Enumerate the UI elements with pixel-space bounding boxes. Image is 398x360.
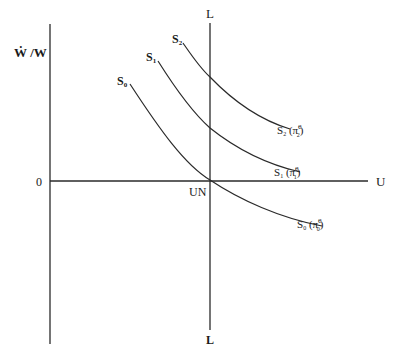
curve-s1: [158, 61, 300, 172]
s1-end-label: S1 (πe1): [274, 164, 301, 180]
s0-start-label: S0: [117, 74, 128, 89]
x-axis-label: U: [376, 174, 386, 189]
s2-end-label: S2 (πe2): [277, 122, 304, 138]
l-line-top-label: L: [206, 6, 214, 21]
s1-start-label: S1: [146, 50, 157, 65]
un-label: UN: [189, 185, 207, 199]
s2-start-label: S2: [172, 32, 183, 47]
phillips-curve-diagram: Ẇ /W 0 U L L UN S0 S1 S2 S2 (πe2) S1 (πe…: [0, 0, 398, 360]
s0-end-label: S0 (πe0): [297, 216, 324, 232]
l-line-bottom-label: L: [206, 333, 214, 347]
curve-s2: [183, 43, 290, 129]
y-axis-label: Ẇ /W: [14, 45, 47, 60]
origin-label: 0: [36, 175, 42, 189]
curve-s0: [130, 84, 322, 226]
